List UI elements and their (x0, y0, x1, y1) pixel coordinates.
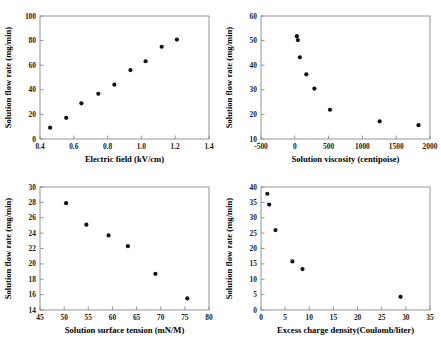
data-point (84, 223, 88, 227)
x-axis-title: Solution surface tension (mN/M) (65, 325, 185, 335)
y-tick-label: 60 (250, 12, 258, 21)
x-tick-label: 25 (378, 313, 386, 322)
scatter-plot-0: 0.40.60.81.01.21.4020406080100Electric f… (0, 0, 220, 172)
plot-frame (261, 16, 430, 139)
data-point (96, 92, 100, 96)
x-tick-label: 0.6 (69, 142, 79, 151)
x-tick-label: 20 (354, 313, 362, 322)
chart-panel-solution-viscosity: -5000500100015002000102030405060Solution… (221, 0, 441, 172)
x-tick-label: 80 (205, 313, 213, 322)
y-axis-title: Solution flow rate (mg/min) (224, 27, 234, 129)
data-point (79, 101, 83, 105)
x-tick-label: 0.4 (35, 142, 45, 151)
y-tick-label: 24 (29, 229, 37, 238)
chart-panel-excess-charge-density: 051015202530350510152025303540Excess cha… (221, 171, 441, 343)
x-tick-label: 1.4 (204, 142, 214, 151)
y-tick-label: 22 (29, 244, 37, 253)
y-tick-label: 40 (250, 61, 258, 70)
y-tick-label: 5 (253, 290, 257, 299)
x-tick-label: 10 (306, 313, 314, 322)
y-tick-label: 10 (250, 275, 258, 284)
x-tick-label: 70 (157, 313, 165, 322)
y-tick-label: 28 (29, 198, 37, 207)
y-tick-label: 40 (29, 85, 37, 94)
y-tick-label: 20 (250, 110, 258, 119)
data-point (273, 228, 277, 232)
data-point (64, 116, 68, 120)
data-point (112, 83, 116, 87)
y-tick-label: 16 (29, 290, 37, 299)
plot-frame (261, 187, 430, 310)
scatter-plot-2: 4550556065707580141618202224262830Soluti… (0, 171, 220, 343)
x-tick-label: 75 (181, 313, 189, 322)
x-tick-label: 1.0 (137, 142, 147, 151)
x-axis-title: Excess charge density(Coulomb/liter) (277, 325, 414, 335)
x-tick-label: 45 (36, 313, 44, 322)
x-tick-label: 35 (426, 313, 434, 322)
y-tick-label: 0 (253, 306, 257, 315)
data-point (64, 201, 68, 205)
y-axis-title: Solution flow rate (mg/min) (3, 198, 13, 300)
y-tick-label: 18 (29, 275, 37, 284)
data-point (328, 108, 332, 112)
data-point (312, 86, 316, 90)
x-tick-label: 50 (60, 313, 68, 322)
x-tick-label: 500 (323, 142, 334, 151)
data-point (126, 244, 130, 248)
data-point (295, 34, 299, 38)
chart-panel-electric-field: 0.40.60.81.01.21.4020406080100Electric f… (0, 0, 220, 172)
x-tick-label: 5 (283, 313, 287, 322)
data-point (378, 119, 382, 123)
y-tick-label: 25 (250, 229, 258, 238)
data-point (48, 126, 52, 130)
scatter-plot-3: 051015202530350510152025303540Excess cha… (221, 171, 441, 343)
data-point (290, 259, 294, 263)
data-point (300, 267, 304, 271)
y-tick-label: 35 (250, 198, 258, 207)
x-tick-label: 1.2 (171, 142, 181, 151)
data-point (296, 38, 300, 42)
y-tick-label: 50 (250, 36, 258, 45)
y-tick-label: 20 (250, 244, 258, 253)
y-tick-label: 26 (29, 213, 37, 222)
x-axis-title: Solution viscosity (centipoise) (292, 154, 400, 164)
y-tick-label: 60 (29, 61, 37, 70)
y-tick-label: 14 (29, 306, 37, 315)
x-tick-label: 1000 (355, 142, 370, 151)
x-tick-label: 1500 (389, 142, 404, 151)
y-axis-title: Solution flow rate (mg/min) (224, 198, 234, 300)
data-point (267, 202, 271, 206)
y-tick-label: 30 (250, 213, 258, 222)
data-point (106, 233, 110, 237)
y-tick-label: 20 (29, 259, 37, 268)
plot-frame (40, 16, 209, 139)
x-axis-title: Electric field (kV/cm) (85, 154, 164, 164)
x-tick-label: 0.8 (103, 142, 113, 151)
y-tick-label: 15 (250, 259, 258, 268)
data-point (185, 296, 189, 300)
y-tick-label: 20 (29, 110, 37, 119)
x-tick-label: 30 (402, 313, 410, 322)
x-tick-label: 15 (330, 313, 338, 322)
plot-frame (40, 187, 209, 310)
y-tick-label: 40 (250, 183, 258, 192)
y-tick-label: 100 (25, 12, 36, 21)
y-tick-label: 10 (250, 135, 258, 144)
y-tick-label: 30 (29, 183, 37, 192)
data-point (175, 38, 179, 42)
x-tick-label: 0 (259, 313, 263, 322)
data-point (144, 59, 148, 63)
scatter-plot-1: -5000500100015002000102030405060Solution… (221, 0, 441, 172)
x-tick-label: 55 (85, 313, 93, 322)
data-point (265, 192, 269, 196)
figure-container: 0.40.60.81.01.21.4020406080100Electric f… (0, 0, 441, 344)
y-tick-label: 30 (250, 85, 258, 94)
y-axis-title: Solution flow rate (mg/min) (3, 27, 13, 129)
data-point (128, 68, 132, 72)
y-tick-label: 80 (29, 36, 37, 45)
y-tick-label: 0 (32, 135, 36, 144)
data-point (160, 45, 164, 49)
x-tick-label: 0 (293, 142, 297, 151)
chart-panel-surface-tension: 4550556065707580141618202224262830Soluti… (0, 171, 220, 343)
x-tick-label: 60 (109, 313, 117, 322)
